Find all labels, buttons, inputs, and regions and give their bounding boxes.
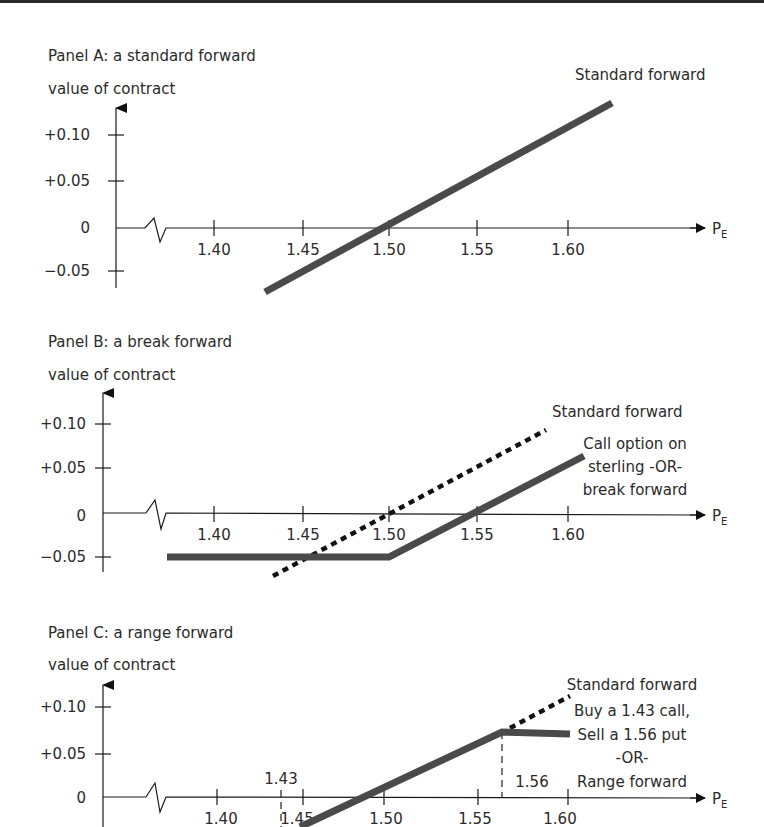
range-forward-label: -OR- xyxy=(616,749,649,767)
panel-a-x-axis xyxy=(116,218,700,242)
y-tick-label: −0.05 xyxy=(40,548,86,566)
panel-b: Panel B: a break forward value of contra… xyxy=(40,333,727,576)
x-tick-label: 1.45 xyxy=(286,526,319,544)
y-tick-label: +0.05 xyxy=(40,745,86,763)
x-tick-label: 1.50 xyxy=(372,241,405,259)
panel-b-ylabel: value of contract xyxy=(48,366,175,384)
panel-a-title: Panel A: a standard forward xyxy=(48,47,256,65)
figure: Panel A: a standard forward value of con… xyxy=(0,0,764,827)
x-tick-label: 1.55 xyxy=(458,810,491,827)
panel-a: Panel A: a standard forward value of con… xyxy=(44,47,727,292)
x-tick-label: 1.60 xyxy=(551,526,584,544)
x-tick-label: 1.60 xyxy=(551,241,584,259)
y-tick-label: 0 xyxy=(76,789,86,807)
y-tick-label: +0.05 xyxy=(40,459,86,477)
x-axis-label: PE xyxy=(712,507,727,527)
y-tick-label: +0.10 xyxy=(44,126,90,144)
range-forward-label: Range forward xyxy=(577,773,687,791)
x-tick-label: 1.45 xyxy=(286,241,319,259)
break-forward-label: sterling -OR- xyxy=(588,458,682,476)
panel-c-title: Panel C: a range forward xyxy=(48,624,233,642)
panel-a-ylabel: value of contract xyxy=(48,80,175,98)
x-tick-label: 1.55 xyxy=(460,241,493,259)
standard-forward-label: Standard forward xyxy=(552,403,683,421)
standard-forward-label: Standard forward xyxy=(575,66,706,84)
break-forward-label: break forward xyxy=(583,481,688,499)
break-forward-label: Call option on xyxy=(583,435,687,453)
strike-high-label: 1.56 xyxy=(515,773,548,791)
x-tick-label: 1.40 xyxy=(204,810,237,827)
y-tick-label: 0 xyxy=(80,219,90,237)
range-forward-label: Sell a 1.56 put xyxy=(578,726,687,744)
x-tick-label: 1.50 xyxy=(372,526,405,544)
panel-c-ylabel: value of contract xyxy=(48,656,175,674)
y-tick-label: +0.10 xyxy=(40,415,86,433)
x-tick-label: 1.60 xyxy=(543,810,576,827)
x-tick-label: 1.40 xyxy=(197,526,230,544)
x-axis-label: PE xyxy=(712,790,727,810)
x-tick-label: 1.55 xyxy=(460,526,493,544)
panel-b-title: Panel B: a break forward xyxy=(48,333,232,351)
y-tick-label: 0 xyxy=(76,507,86,525)
x-tick-label: 1.40 xyxy=(197,241,230,259)
standard-forward-line xyxy=(265,103,612,292)
y-tick-label: −0.05 xyxy=(44,262,90,280)
standard-forward-label: Standard forward xyxy=(567,676,698,694)
range-forward-label: Buy a 1.43 call, xyxy=(574,702,690,720)
standard-forward-dotted-line xyxy=(510,696,570,728)
x-axis-label: PE xyxy=(712,220,727,240)
panel-c: Panel C: a range forward value of contra… xyxy=(40,624,727,827)
y-tick-label: +0.10 xyxy=(40,698,86,716)
y-tick-label: +0.05 xyxy=(44,172,90,190)
x-tick-label: 1.50 xyxy=(369,810,402,827)
strike-low-label: 1.43 xyxy=(264,770,297,788)
panel-b-x-axis xyxy=(103,500,700,529)
